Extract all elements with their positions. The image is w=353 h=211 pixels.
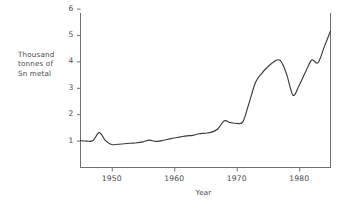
- y-tick-label: 6: [54, 4, 74, 13]
- x-tick-label: 1980: [281, 174, 317, 183]
- x-tick-label: 1960: [156, 174, 192, 183]
- y-tick-marks: [77, 9, 81, 141]
- x-tick-label: 1970: [219, 174, 255, 183]
- series-line-sn-metal: [81, 31, 331, 145]
- x-tick-label: 1950: [94, 174, 130, 183]
- chart-figure: Thousand tonnes of Sn metal Year 1234561…: [0, 0, 353, 211]
- y-tick-label: 3: [54, 83, 74, 92]
- y-axis-title-line-3: Sn metal: [18, 69, 76, 78]
- x-axis-title-text: Year: [196, 188, 212, 197]
- y-tick-label: 2: [54, 109, 74, 118]
- x-axis-title: Year: [0, 188, 353, 197]
- y-tick-label: 4: [54, 56, 74, 65]
- y-tick-label: 5: [54, 30, 74, 39]
- y-tick-label: 1: [54, 136, 74, 145]
